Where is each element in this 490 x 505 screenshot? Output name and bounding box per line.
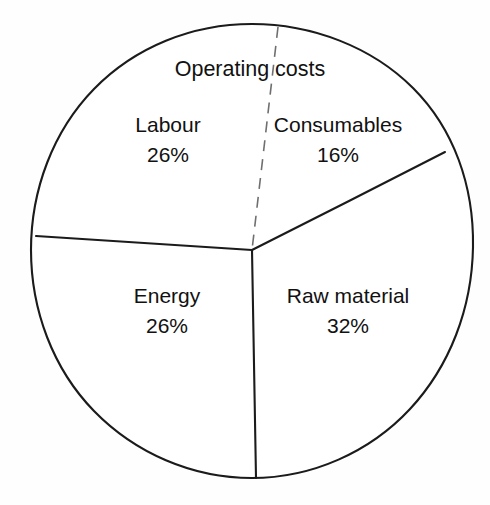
chart-title: Operating costs (175, 57, 326, 81)
slice-label-raw-material: Raw material (287, 284, 410, 307)
slice-label-energy: Energy (134, 284, 201, 307)
slice-energy[interactable] (35, 236, 256, 478)
slice-value-consumables: 16% (317, 143, 359, 166)
slice-value-labour: 26% (147, 143, 189, 166)
slice-value-energy: 26% (146, 314, 188, 337)
pie-chart-svg: Operating costs Labour 26% Consumables 1… (0, 0, 490, 505)
slice-value-raw-material: 32% (327, 314, 369, 337)
slice-label-consumables: Consumables (274, 113, 402, 136)
slice-label-labour: Labour (135, 113, 200, 136)
pie-chart-figure: Operating costs Labour 26% Consumables 1… (0, 0, 490, 505)
